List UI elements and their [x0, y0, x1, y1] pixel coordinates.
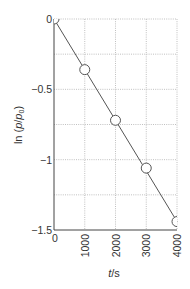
y-tick-label: 0: [46, 13, 52, 25]
y-tick-label: −1.5: [31, 224, 52, 236]
y-axis-label: ln (p/p0): [12, 106, 25, 144]
data-point: [111, 115, 121, 125]
x-tick-label: 2000: [110, 234, 122, 258]
data-point: [172, 217, 182, 227]
data-point: [141, 163, 151, 173]
x-tick-label: 0: [52, 232, 58, 244]
x-tick-label: 3000: [140, 234, 152, 258]
x-tick-label: 4000: [171, 234, 183, 258]
y-tick-label: −0.5: [31, 83, 52, 95]
data-point: [80, 65, 90, 75]
x-tick-label: 1000: [79, 234, 91, 258]
y-tick-label: −1: [40, 154, 52, 166]
chart: 0−0.5−1−1.501000200030004000 ln (p/p0) t…: [0, 0, 190, 289]
x-axis-label: t/s: [108, 267, 120, 279]
